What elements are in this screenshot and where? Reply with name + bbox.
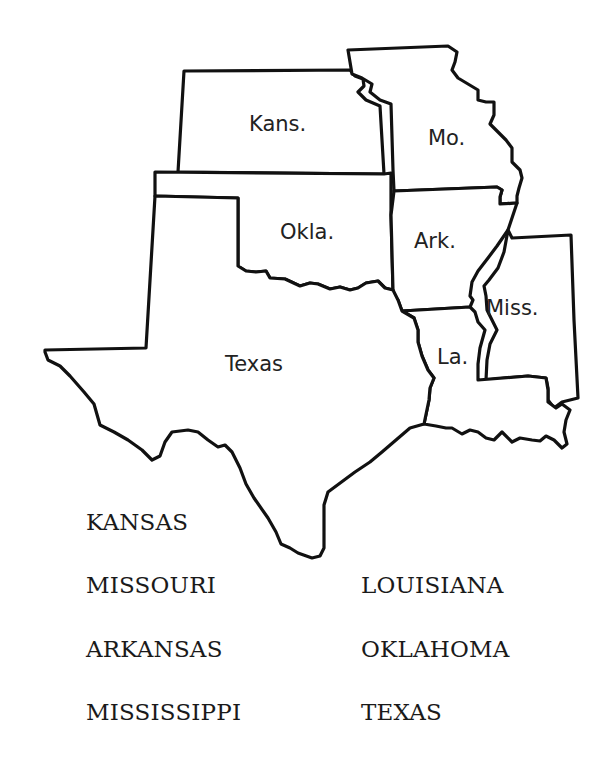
- word-kansas: KANSAS: [86, 509, 188, 535]
- label-mississippi: Miss.: [486, 296, 539, 320]
- word-mississippi: MISSISSIPPI: [86, 699, 241, 725]
- word-arkansas: ARKANSAS: [86, 636, 223, 662]
- label-texas: Texas: [225, 352, 283, 376]
- label-louisiana: La.: [437, 345, 468, 369]
- word-missouri: MISSOURI: [86, 572, 216, 598]
- word-louisiana: LOUISIANA: [361, 572, 504, 598]
- word-texas: TEXAS: [361, 699, 442, 725]
- label-missouri: Mo.: [428, 126, 465, 150]
- word-oklahoma: OKLAHOMA: [361, 636, 510, 662]
- label-arkansas: Ark.: [414, 229, 456, 253]
- states-map: [0, 0, 597, 580]
- label-oklahoma: Okla.: [280, 220, 334, 244]
- label-kansas: Kans.: [249, 112, 306, 136]
